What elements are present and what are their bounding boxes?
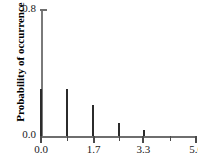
x-axis-tick [195, 136, 197, 143]
bar [143, 130, 145, 136]
bar [92, 105, 94, 137]
x-axis-tick-label: 0.0 [34, 143, 48, 155]
y-axis-tick-label: 0.8 [8, 2, 36, 14]
x-axis-tick-label: 3.3 [136, 143, 150, 155]
x-axis-tick-label: 5.0 [189, 143, 198, 155]
y-axis-title: Probability of occurrence [14, 0, 26, 129]
chart-figure: Probability of occurrence 0.80.0 0.01.73… [0, 0, 198, 164]
bar [40, 89, 42, 136]
x-axis-tick-label: 1.7 [87, 143, 101, 155]
x-axis-tick [170, 136, 171, 141]
bar [66, 89, 68, 136]
y-axis-tick-label: 0.0 [8, 128, 36, 140]
x-axis-tick [67, 136, 68, 141]
y-axis-tick [40, 9, 47, 11]
x-axis-tick [40, 136, 42, 143]
x-axis-tick [93, 136, 95, 143]
bar [118, 123, 120, 136]
x-axis-tick [142, 136, 144, 143]
x-axis-tick [119, 136, 120, 141]
